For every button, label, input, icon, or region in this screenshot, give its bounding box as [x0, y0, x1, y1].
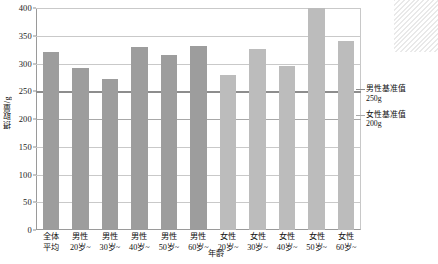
- y-axis-tick-label: 350: [19, 31, 32, 41]
- y-axis-tick-label: 300: [19, 59, 32, 69]
- x-axis-label-line1: 男性: [72, 232, 88, 241]
- x-axis-label: 男性20岁~: [66, 232, 96, 253]
- y-axis-tick-label: 400: [19, 3, 32, 13]
- y-axis-tick-label: 250: [19, 86, 32, 96]
- legend-label: 女性基准值200g: [366, 110, 438, 130]
- bar: [161, 55, 178, 230]
- legend-item: 男性基准值250g: [366, 84, 438, 104]
- legend-label-line2: 200g: [366, 119, 438, 129]
- x-axis-label-line2: 平均: [36, 243, 66, 254]
- x-axis-label: 女性40岁~: [272, 232, 302, 253]
- x-axis-label: 女性60岁~: [331, 232, 361, 253]
- x-axis-label-line1: 男性: [102, 232, 118, 241]
- legend-line-swatch: [356, 115, 365, 116]
- legend-label-line1: 男性基准值: [366, 84, 438, 94]
- y-axis-tick-label: 100: [19, 170, 32, 180]
- x-axis-label-line1: 男性: [190, 232, 206, 241]
- legend-item: 女性基准值200g: [366, 110, 438, 130]
- x-axis-label-line1: 女性: [338, 232, 354, 241]
- plot-area: 050100150200250300350400: [36, 8, 361, 230]
- y-axis-tick-label: 50: [23, 197, 32, 207]
- x-axis-labels: 全体平均男性20岁~男性30岁~男性40岁~男性50岁~男性60岁~女性20岁~…: [36, 232, 361, 264]
- x-axis-label-line2: 20岁~: [66, 243, 96, 254]
- x-axis-title: 年龄: [208, 246, 224, 258]
- bar: [308, 8, 325, 230]
- x-axis-label-line1: 女性: [220, 232, 236, 241]
- legend: 男性基准值250g女性基准值200g: [366, 84, 438, 135]
- x-axis-label: 男性50岁~: [154, 232, 184, 253]
- bar: [279, 66, 296, 230]
- x-axis-label-line1: 女性: [309, 232, 325, 241]
- x-axis-label-line1: 全体: [43, 232, 59, 241]
- corner-hatch-decoration: [394, 0, 438, 52]
- x-axis-label-line1: 女性: [279, 232, 295, 241]
- x-axis-label-line1: 男性: [161, 232, 177, 241]
- bar-series: [36, 8, 361, 230]
- y-axis-tick-label: 0: [28, 225, 32, 235]
- bar: [338, 41, 355, 230]
- x-axis-label-line2: 40岁~: [125, 243, 155, 254]
- x-axis-label-line2: 30岁~: [95, 243, 125, 254]
- legend-line-swatch: [356, 89, 365, 90]
- y-axis-tick-label: 150: [19, 142, 32, 152]
- x-axis-label-line2: 30岁~: [243, 243, 273, 254]
- legend-label-line2: 250g: [366, 94, 438, 104]
- x-axis-label: 全体平均: [36, 232, 66, 253]
- y-axis-title: 摂取量/g: [2, 96, 13, 129]
- x-axis-label-line1: 男性: [131, 232, 147, 241]
- chart-container: 摂取量/g 050100150200250300350400 全体平均男性20岁…: [0, 0, 438, 264]
- bar: [102, 79, 119, 231]
- x-axis-label-line2: 40岁~: [272, 243, 302, 254]
- x-axis-label: 女性30岁~: [243, 232, 273, 253]
- bar: [249, 49, 266, 230]
- x-axis-label-line2: 50岁~: [302, 243, 332, 254]
- legend-label-line1: 女性基准值: [366, 110, 438, 120]
- x-axis-label: 男性30岁~: [95, 232, 125, 253]
- y-axis-tick-label: 200: [19, 114, 32, 124]
- legend-label: 男性基准值250g: [366, 84, 438, 104]
- bar: [220, 75, 237, 230]
- x-axis-label-line2: 50岁~: [154, 243, 184, 254]
- x-axis-label: 女性50岁~: [302, 232, 332, 253]
- x-axis-label-line1: 女性: [250, 232, 266, 241]
- x-axis-label: 男性40岁~: [125, 232, 155, 253]
- bar: [131, 47, 148, 230]
- bar: [190, 46, 207, 230]
- x-axis-label-line2: 60岁~: [331, 243, 361, 254]
- bar: [72, 68, 89, 230]
- bar: [43, 52, 60, 230]
